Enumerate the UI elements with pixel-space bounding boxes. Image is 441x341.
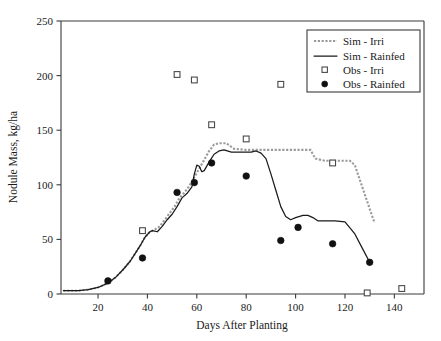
chart-container: 050100150200250 20406080100120140 Days A… (0, 0, 441, 341)
x-tick-label: 40 (142, 301, 154, 313)
data-point-obs-irri (330, 160, 336, 166)
legend-swatch-obs-irri (322, 67, 327, 72)
x-tick-label: 100 (287, 301, 304, 313)
y-tick-label: 0 (48, 288, 54, 300)
data-point-obs-irri (243, 136, 249, 142)
y-tick-label: 250 (37, 15, 54, 27)
data-point-obs-rainfed (208, 160, 215, 167)
data-point-obs-irri (364, 290, 370, 296)
data-point-obs-rainfed (277, 237, 284, 244)
chart-legend: Sim - Irri Sim - Rainfed Obs - Irri Obs … (307, 30, 420, 92)
x-tick-label: 20 (93, 301, 105, 313)
data-point-obs-irri (399, 286, 405, 292)
y-tick-label: 50 (42, 233, 54, 245)
data-point-obs-irri (191, 77, 197, 83)
legend-label-sim-rainfed: Sim - Rainfed (343, 50, 405, 62)
legend-label-sim-irri: Sim - Irri (343, 35, 384, 47)
data-point-obs-rainfed (295, 224, 302, 231)
data-point-obs-rainfed (105, 278, 112, 285)
x-tick-label: 80 (241, 301, 253, 313)
x-axis-title: Days After Planting (196, 319, 288, 332)
data-point-obs-irri (174, 72, 180, 78)
data-point-obs-irri (140, 228, 146, 234)
data-point-obs-rainfed (174, 189, 181, 196)
nodule-mass-line-chart: 050100150200250 20406080100120140 Days A… (0, 0, 441, 341)
data-point-obs-irri (278, 81, 284, 87)
y-axis-title: Nodule Mass, kg/ha (7, 111, 20, 203)
legend-swatch-obs-rainfed (322, 81, 328, 87)
data-point-obs-rainfed (243, 173, 250, 180)
legend-label-obs-irri: Obs - Irri (343, 64, 384, 76)
y-tick-label: 150 (37, 124, 54, 136)
data-point-obs-irri (209, 122, 215, 128)
x-tick-label: 140 (386, 301, 403, 313)
y-tick-label: 200 (37, 70, 54, 82)
x-tick-label: 60 (191, 301, 203, 313)
legend-label-obs-rainfed: Obs - Rainfed (343, 78, 405, 90)
data-point-obs-rainfed (329, 240, 336, 247)
y-tick-label: 100 (37, 179, 54, 191)
x-tick-label: 120 (337, 301, 354, 313)
data-point-obs-rainfed (366, 259, 373, 266)
data-point-obs-rainfed (191, 179, 198, 186)
data-point-obs-rainfed (139, 255, 146, 262)
